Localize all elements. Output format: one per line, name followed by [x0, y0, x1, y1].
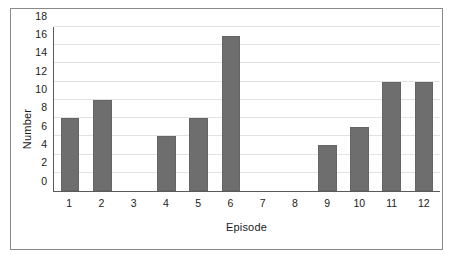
y-tick-label: 10	[35, 83, 47, 95]
figure-frame: Number 024681012141618 123456789101112 E…	[10, 8, 443, 250]
bar-slot	[344, 27, 376, 191]
plot-area	[53, 27, 440, 192]
bar-slot	[118, 27, 150, 191]
x-tick-label: 10	[343, 197, 375, 213]
bar[interactable]	[415, 82, 434, 191]
x-tick-label: 5	[182, 197, 214, 213]
x-tick-label: 1	[53, 197, 85, 213]
bar-slot	[247, 27, 279, 191]
x-tick-label: 4	[150, 197, 182, 213]
x-axis-tick-labels: 123456789101112	[53, 197, 440, 213]
x-tick-label: 6	[214, 197, 246, 213]
bar-slot	[86, 27, 118, 191]
bar-slot	[311, 27, 343, 191]
y-tick-label: 6	[41, 120, 47, 132]
y-tick-label: 16	[35, 28, 47, 40]
x-tick-label: 2	[85, 197, 117, 213]
y-tick-label: 0	[41, 175, 47, 187]
x-tick-label: 3	[118, 197, 150, 213]
bar-slot	[151, 27, 183, 191]
x-tick-label: 11	[376, 197, 408, 213]
bar-slot	[376, 27, 408, 191]
y-tick-label: 2	[41, 156, 47, 168]
x-axis-title: Episode	[53, 221, 440, 233]
y-tick-label: 4	[41, 138, 47, 150]
bar[interactable]	[382, 82, 401, 191]
y-tick-label: 18	[35, 10, 47, 22]
bar-slot	[215, 27, 247, 191]
bar-slot	[279, 27, 311, 191]
x-tick-label: 9	[311, 197, 343, 213]
bar[interactable]	[189, 118, 208, 191]
bar[interactable]	[61, 118, 80, 191]
x-tick-label: 8	[279, 197, 311, 213]
bar[interactable]	[222, 36, 241, 191]
y-tick-label: 8	[41, 101, 47, 113]
bar[interactable]	[350, 127, 369, 191]
bar[interactable]	[318, 145, 337, 191]
y-tick-label: 12	[35, 65, 47, 77]
bar-chart: Number 024681012141618 123456789101112 E…	[11, 9, 442, 249]
bar[interactable]	[157, 136, 176, 191]
bar[interactable]	[93, 100, 112, 191]
y-axis-title: Number	[21, 109, 33, 149]
bar-series	[54, 27, 440, 191]
bar-slot	[183, 27, 215, 191]
bar-slot	[54, 27, 86, 191]
bar-slot	[408, 27, 440, 191]
y-tick-label: 14	[35, 46, 47, 58]
x-tick-label: 7	[247, 197, 279, 213]
x-tick-label: 12	[408, 197, 440, 213]
